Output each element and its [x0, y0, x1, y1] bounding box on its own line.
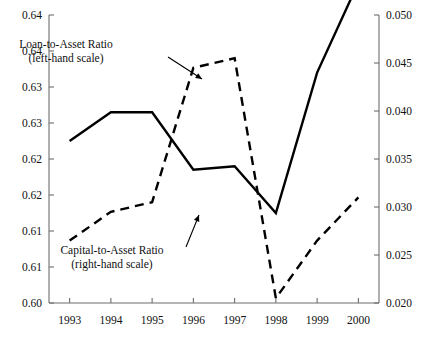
annotation-line-1: Loan-to-Asset Ratio — [19, 38, 113, 50]
left-tick-label: 0.63 — [22, 81, 42, 93]
x-tick-label: 1999 — [306, 314, 329, 326]
right-tick-label: 0.025 — [386, 249, 412, 261]
capital-to-asset-annotation: Capital-to-Asset Ratio(right-hand scale) — [60, 215, 199, 271]
left-tick-label: 0.64 — [22, 9, 42, 21]
annotation-line-2: (right-hand scale) — [71, 258, 153, 271]
left-tick-label: 0.61 — [22, 225, 42, 237]
right-tick-label: 0.045 — [386, 57, 412, 69]
chart-container: 0.600.610.610.620.620.630.630.640.640.02… — [0, 0, 428, 343]
line-chart: 0.600.610.610.620.620.630.630.640.640.02… — [0, 0, 428, 343]
loan-to-asset-annotation: Loan-to-Asset Ratio(left-hand scale) — [19, 38, 202, 79]
series-line-loan-to-asset-ratio — [70, 0, 359, 213]
right-tick-label: 0.050 — [386, 9, 412, 21]
left-tick-label: 0.62 — [22, 189, 42, 201]
x-axis-ticks: 19931994199519961997199819992000 — [58, 298, 370, 326]
right-tick-label: 0.040 — [386, 105, 412, 117]
right-tick-label: 0.035 — [386, 153, 412, 165]
x-tick-label: 1994 — [99, 314, 122, 326]
x-tick-label: 2000 — [347, 314, 370, 326]
left-tick-label: 0.61 — [22, 261, 42, 273]
annotation-line-1: Capital-to-Asset Ratio — [60, 244, 163, 257]
x-tick-label: 1998 — [264, 314, 287, 326]
annotation-arrow-head — [195, 73, 202, 79]
annotation-line-2: (left-hand scale) — [28, 52, 103, 65]
x-tick-label: 1993 — [58, 314, 81, 326]
right-axis-ticks: 0.0200.0250.0300.0350.0400.0450.050 — [374, 9, 412, 309]
left-tick-label: 0.60 — [22, 297, 42, 309]
x-tick-label: 1997 — [223, 314, 246, 326]
right-tick-label: 0.020 — [386, 297, 412, 309]
left-tick-label: 0.63 — [22, 117, 42, 129]
x-tick-label: 1995 — [141, 314, 164, 326]
left-tick-label: 0.62 — [22, 153, 42, 165]
right-tick-label: 0.030 — [386, 201, 412, 213]
x-tick-label: 1996 — [182, 314, 205, 326]
